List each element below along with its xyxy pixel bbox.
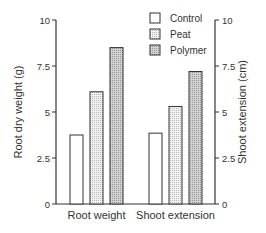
legend-label-control: Control	[170, 13, 202, 24]
bar-polymer-1	[189, 72, 202, 204]
bar-control-0	[70, 135, 83, 204]
y-tick-label-left: 5	[45, 107, 50, 118]
legend-swatch-peat	[150, 29, 160, 39]
y-axis-label-right: Shoot extension (cm)	[236, 60, 248, 164]
y-tick-label-left: 10	[39, 15, 50, 26]
legend-swatch-polymer	[150, 45, 160, 55]
bars: Root weightShoot extension	[67, 48, 214, 221]
y-tick-label-right: 7.5	[222, 61, 235, 72]
legend-label-peat: Peat	[170, 29, 191, 40]
x-category-label: Root weight	[67, 209, 125, 221]
y-tick-label-left: 7.5	[37, 61, 50, 72]
x-category-label: Shoot extension	[136, 209, 215, 221]
axes: 002.52.5557.57.51010	[37, 15, 235, 210]
y-tick-label-left: 2.5	[37, 153, 50, 164]
bar-peat-0	[90, 92, 103, 204]
legend-swatch-control	[150, 13, 160, 23]
bar-peat-1	[169, 106, 182, 204]
bar-polymer-0	[110, 48, 123, 204]
y-tick-label-left: 0	[45, 199, 50, 210]
bar-control-1	[149, 133, 162, 204]
bar-chart: 002.52.5557.57.51010 Root weightShoot ex…	[0, 0, 266, 233]
y-tick-label-right: 0	[222, 199, 227, 210]
y-axis-label-left: Root dry weight (g)	[12, 66, 24, 159]
y-tick-label-right: 2.5	[222, 153, 235, 164]
legend: ControlPeatPolymer	[150, 13, 207, 56]
legend-label-polymer: Polymer	[170, 45, 207, 56]
y-tick-label-right: 5	[222, 107, 227, 118]
y-tick-label-right: 10	[222, 15, 233, 26]
